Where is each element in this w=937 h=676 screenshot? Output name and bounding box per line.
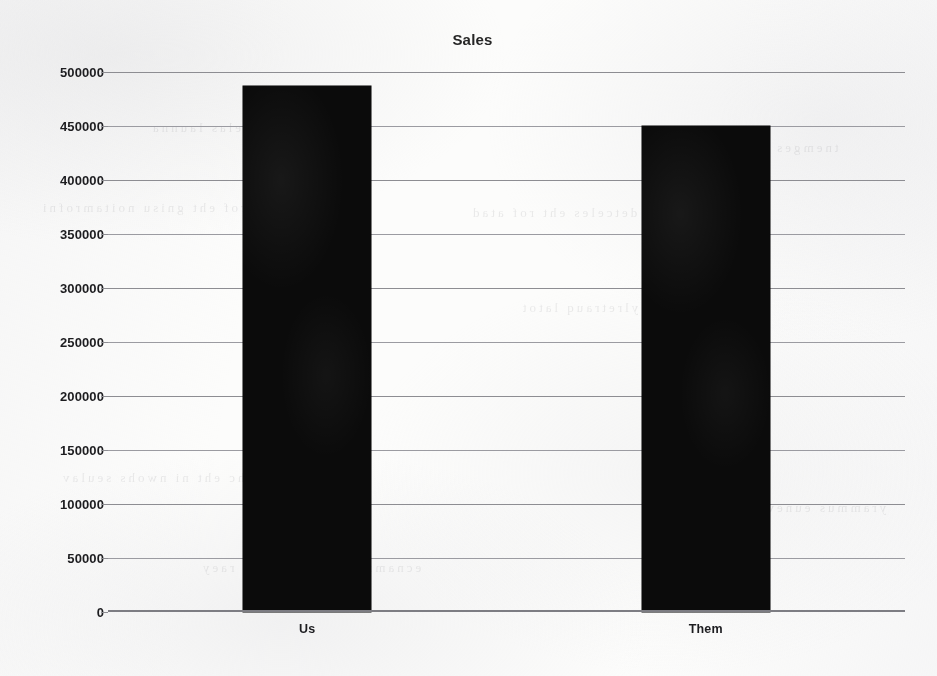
x-axis-tick-label: Us (299, 622, 315, 636)
x-axis-tick-label: Them (689, 622, 723, 636)
sales-bar-chart: Sales 5000004500004000003500003000002500… (0, 0, 937, 676)
y-axis-tick (101, 126, 108, 127)
y-axis-tick-label: 350000 (0, 227, 104, 242)
y-axis-tick (101, 288, 108, 289)
y-axis-tick (101, 612, 108, 613)
bar-scan-sheen (642, 126, 770, 612)
y-axis-tick (101, 396, 108, 397)
gridline (108, 180, 905, 181)
y-axis-tick-labels: 5000004500004000003500003000002500002000… (0, 72, 104, 612)
chart-title: Sales (0, 31, 937, 48)
bar-scan-sheen (243, 86, 371, 612)
y-axis-tick (101, 558, 108, 559)
gridline (108, 72, 905, 73)
plot-area (108, 72, 905, 612)
y-axis-tick (101, 504, 108, 505)
y-axis-tick-label: 100000 (0, 497, 104, 512)
gridline (108, 126, 905, 127)
y-axis-tick (101, 180, 108, 181)
gridline (108, 450, 905, 451)
gridline (108, 234, 905, 235)
y-axis-tick (101, 450, 108, 451)
gridline (108, 558, 905, 559)
gridline (108, 504, 905, 505)
y-axis-tick (101, 234, 108, 235)
bar-them (642, 126, 770, 612)
x-axis-line (108, 610, 905, 612)
gridline (108, 342, 905, 343)
y-axis-tick (101, 72, 108, 73)
y-axis-tick (101, 342, 108, 343)
gridline (108, 396, 905, 397)
bar-us (243, 86, 371, 612)
y-axis-tick-label: 150000 (0, 443, 104, 458)
scanned-chart-page: smrof eht gnisu noitamrofnidetceles eht … (0, 0, 937, 676)
chart-title-text: Sales (452, 31, 492, 48)
y-axis-tick-label: 500000 (0, 65, 104, 80)
gridline (108, 288, 905, 289)
y-axis-tick-label: 0 (0, 605, 104, 620)
y-axis-tick-label: 300000 (0, 281, 104, 296)
y-axis-tick-label: 450000 (0, 119, 104, 134)
y-axis-tick-label: 200000 (0, 389, 104, 404)
y-axis-tick-label: 400000 (0, 173, 104, 188)
y-axis-tick-label: 250000 (0, 335, 104, 350)
y-axis-tick-label: 50000 (0, 551, 104, 566)
